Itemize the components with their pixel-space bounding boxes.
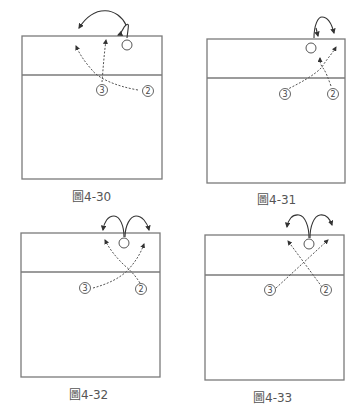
route-player-2 xyxy=(288,241,322,287)
player-label: 2 xyxy=(330,90,335,99)
player-2-marker: 2 xyxy=(136,284,147,295)
figure-caption: 圖4-30 xyxy=(72,187,111,204)
player-label: 2 xyxy=(323,286,328,295)
route-player-3 xyxy=(93,244,144,288)
player-3-marker: 3 xyxy=(265,285,276,296)
figure-4-30: 3 2 xyxy=(22,11,162,179)
player-2-marker: 2 xyxy=(328,89,339,100)
diagram-canvas: 3 2 3 2 xyxy=(0,0,361,418)
ball-icon xyxy=(122,40,132,50)
ball-icon xyxy=(306,43,316,53)
loop-arrow-right xyxy=(314,17,334,38)
loop-arrow-left xyxy=(79,11,126,28)
figure-4-32: 3 2 xyxy=(21,216,160,377)
figure-4-33: 3 2 xyxy=(205,215,344,380)
figure-4-31: 3 2 xyxy=(207,17,345,183)
ball-icon xyxy=(119,238,129,248)
route-player-2 xyxy=(320,58,331,86)
split-arrow-left xyxy=(103,216,124,237)
player-3-marker: 3 xyxy=(97,85,108,96)
player-label: 3 xyxy=(267,286,272,295)
court-outline xyxy=(207,39,345,183)
route-player-3 xyxy=(102,40,106,82)
split-arrow-right xyxy=(125,216,149,237)
player-label: 2 xyxy=(145,87,150,96)
figure-caption: 圖4-32 xyxy=(69,385,108,402)
route-player-3 xyxy=(276,240,328,288)
loop-arrow-short xyxy=(316,28,318,36)
player-label: 3 xyxy=(282,90,287,99)
player-2-marker: 2 xyxy=(143,86,154,97)
court-outline xyxy=(205,235,344,380)
player-2-marker: 2 xyxy=(321,285,332,296)
figure-caption: 圖4-33 xyxy=(253,388,292,405)
player-3-marker: 3 xyxy=(280,89,291,100)
court-outline xyxy=(22,36,162,179)
player-label: 3 xyxy=(82,284,87,293)
figure-caption: 圖4-31 xyxy=(257,190,296,207)
player-label: 2 xyxy=(138,285,143,294)
ball-icon xyxy=(304,239,314,249)
player-3-marker: 3 xyxy=(80,283,91,294)
player-label: 3 xyxy=(99,86,104,95)
route-player-2 xyxy=(76,46,138,90)
